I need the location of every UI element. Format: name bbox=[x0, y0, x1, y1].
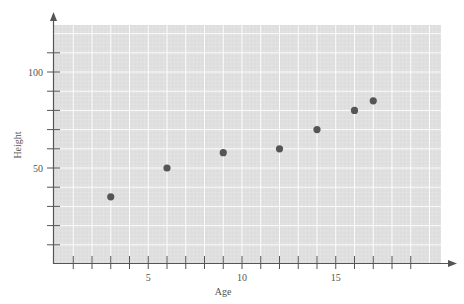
x-axis-title: Age bbox=[215, 286, 232, 297]
data-point bbox=[163, 164, 170, 171]
y-tick-label: 100 bbox=[28, 67, 43, 78]
x-tick-label: 10 bbox=[237, 272, 247, 283]
data-point bbox=[370, 97, 377, 104]
data-point bbox=[220, 149, 227, 156]
scatter-chart: 51015 50100 Age Height bbox=[0, 0, 464, 304]
y-tick-label: 50 bbox=[33, 163, 43, 174]
y-axis-title: Height bbox=[12, 131, 23, 158]
plot-background bbox=[54, 25, 441, 263]
y-axis-arrow-icon bbox=[50, 12, 57, 21]
data-point bbox=[313, 126, 320, 133]
data-point bbox=[276, 145, 283, 152]
plot-area bbox=[54, 25, 441, 263]
x-tick-label: 5 bbox=[146, 272, 151, 283]
x-axis-arrow-icon bbox=[448, 260, 457, 267]
data-point bbox=[107, 193, 114, 200]
data-point bbox=[351, 107, 358, 114]
x-tick-label: 15 bbox=[331, 272, 341, 283]
